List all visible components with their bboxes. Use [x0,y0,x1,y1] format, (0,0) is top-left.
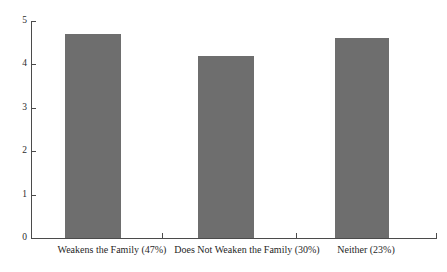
category-label-2: Neither (23%) [292,244,440,255]
y-tick-label-3: 3 [3,103,27,113]
y-tick-label-4: 4 [3,59,27,69]
y-tick-label-5-wrap: 5 [0,21,27,22]
y-tick-label-0-wrap: 0 [0,238,27,239]
bar-does-not-weaken-the-family[interactable] [198,56,254,238]
bar-chart: 5 4 3 2 1 0 Weakens the Family (47%) Doe… [0,0,447,272]
bars-layer [31,21,437,238]
y-tick-label-3-wrap: 3 [0,108,27,109]
y-tick-label-5: 5 [3,16,27,26]
y-tick-label-1-wrap: 1 [0,195,27,196]
y-tick-label-4-wrap: 4 [0,64,27,65]
bar-neither[interactable] [335,38,389,238]
y-tick-label-1: 1 [3,190,27,200]
y-tick-label-2: 2 [3,146,27,156]
bar-weakens-the-family[interactable] [65,34,121,238]
y-tick-label-2-wrap: 2 [0,151,27,152]
x-axis-line [31,238,437,239]
y-tick-label-0: 0 [3,233,27,243]
